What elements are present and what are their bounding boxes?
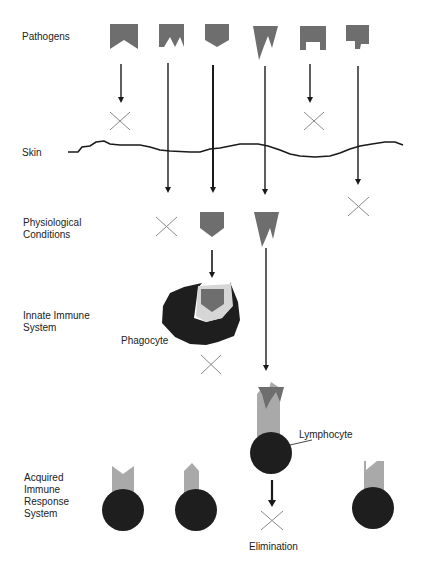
pathogen-1-icon — [110, 24, 138, 49]
label-skin: Skin — [22, 147, 41, 159]
pathogen-3-survivor-icon — [200, 212, 224, 237]
cross-icon — [201, 355, 221, 374]
pathogen-row — [110, 24, 369, 60]
pathogen-4-survivor-icon — [254, 212, 279, 247]
pathogen-4-icon — [253, 26, 278, 60]
arrowhead-icon — [165, 187, 171, 193]
arrowheads — [118, 97, 361, 507]
label-innate: Innate Immune System — [23, 310, 90, 334]
label-phagocyte: Phagocyte — [121, 335, 168, 347]
arrowhead-icon — [355, 179, 361, 185]
cross-icon — [110, 112, 130, 130]
label-pathogens: Pathogens — [22, 31, 70, 43]
arrowhead-icon — [262, 189, 268, 195]
skin-line — [68, 141, 403, 157]
lymphocyte-2 — [175, 463, 217, 531]
label-lymphocyte: Lymphocyte — [299, 429, 353, 441]
pathogen-6-icon — [346, 25, 369, 49]
arrowhead-icon — [268, 500, 276, 507]
cross-icon — [156, 217, 177, 236]
label-acquired: Acquired Immune Response System — [24, 472, 69, 520]
pathogen-3-icon — [205, 24, 229, 47]
lymphocyte-bound — [250, 382, 312, 474]
cross-icon — [261, 511, 283, 530]
phagocyte-cell — [162, 282, 240, 345]
label-elimination: Elimination — [249, 541, 298, 553]
arrowhead-icon — [307, 97, 313, 103]
pathogen-5-icon — [300, 26, 326, 50]
label-physiological: Physiological Conditions — [23, 217, 81, 241]
arrowhead-icon — [118, 97, 124, 103]
lymphocyte-4 — [352, 461, 394, 529]
pathogen-2-icon — [159, 24, 184, 47]
arrowhead-icon — [209, 272, 215, 278]
cross-icon — [348, 197, 369, 216]
arrowhead-icon — [263, 365, 269, 371]
lymphocyte-1 — [102, 466, 144, 531]
arrowhead-icon — [210, 187, 216, 193]
cross-icon — [304, 112, 324, 130]
